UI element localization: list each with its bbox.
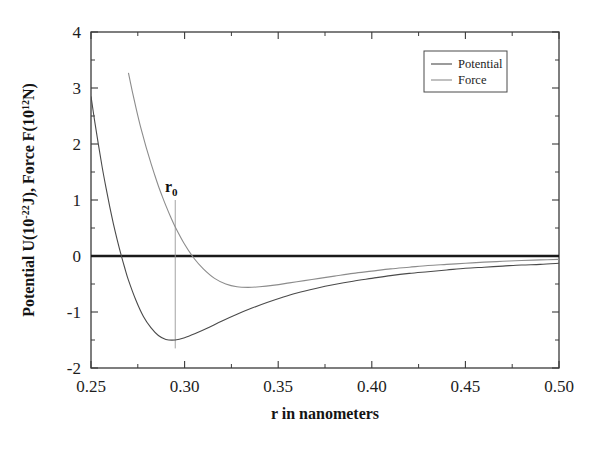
y-axis-title: Potential U(10-22J), Force F(1012N)	[20, 83, 38, 317]
y-axis-title-part3: N)	[20, 83, 38, 100]
annotation-r0-base: r	[165, 178, 172, 195]
legend-label-potential: Potential	[458, 57, 503, 71]
y-tick-label: 2	[73, 135, 82, 154]
legend-label-force: Force	[458, 73, 487, 87]
legend: Potential Force	[424, 51, 507, 92]
y-axis-title-sup2: 12	[20, 100, 31, 110]
x-tick-label: 0.30	[170, 377, 200, 396]
figure-canvas: 0.250.300.350.400.450.50 -2-101234 r0 r …	[0, 0, 604, 450]
annotation-r0-subscript: 0	[172, 186, 178, 198]
y-tick-label: -2	[67, 359, 81, 378]
y-tick-label: 4	[73, 23, 82, 42]
x-tick-label: 0.25	[76, 377, 106, 396]
y-axis-title-sup1: -22	[20, 205, 31, 218]
y-tick-label: 0	[73, 247, 82, 266]
y-axis-title-part2: J), Force F(10	[20, 110, 38, 205]
x-tick-label: 0.40	[357, 377, 387, 396]
y-tick-label: 1	[73, 191, 82, 210]
y-axis-title-part1: Potential U(10	[20, 219, 38, 317]
x-tick-label: 0.35	[263, 377, 293, 396]
potential-force-line-chart: 0.250.300.350.400.450.50 -2-101234 r0 r …	[0, 0, 604, 450]
y-tick-label: 3	[73, 79, 82, 98]
y-tick-label: -1	[67, 303, 81, 322]
x-tick-label: 0.50	[544, 377, 574, 396]
x-axis-title: r in nanometers	[271, 405, 379, 422]
x-tick-label: 0.45	[451, 377, 481, 396]
